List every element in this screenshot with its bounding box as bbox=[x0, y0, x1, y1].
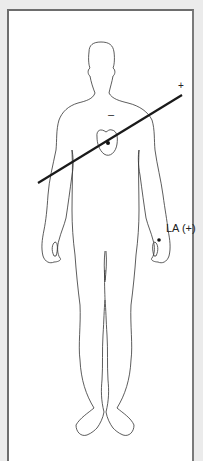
la-electrode-label: LA (+) bbox=[166, 223, 196, 234]
positive-pole-label: + bbox=[178, 81, 184, 91]
negative-pole-label: – bbox=[108, 109, 114, 120]
body-outline bbox=[42, 42, 170, 435]
la-electrode-dot bbox=[157, 238, 161, 242]
heart-center-dot bbox=[106, 141, 110, 145]
